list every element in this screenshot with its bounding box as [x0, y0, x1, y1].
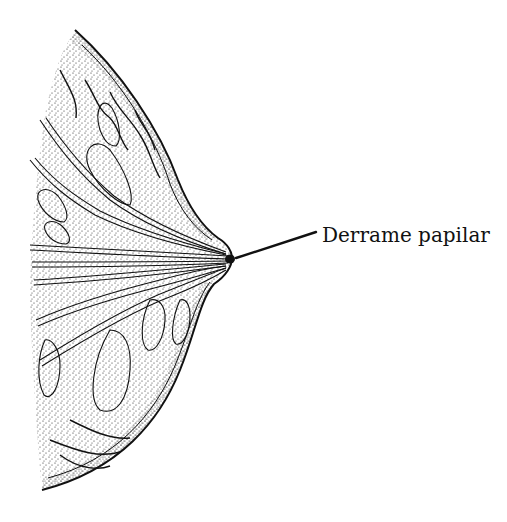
breast-anatomy-figure: Derrame papilar	[0, 0, 507, 522]
nipple	[225, 255, 235, 264]
breast-illustration	[0, 0, 507, 522]
label-derrame-papilar: Derrame papilar	[322, 223, 490, 247]
leader-line	[236, 232, 316, 258]
